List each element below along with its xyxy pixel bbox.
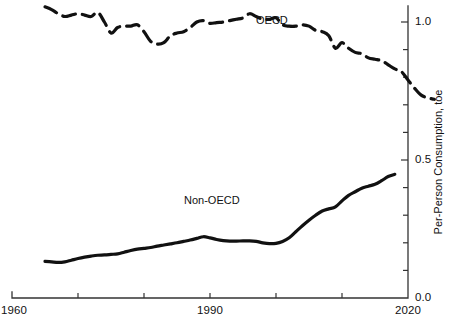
series-group bbox=[45, 7, 434, 263]
y-axis-title-wrap: Per-Person Consumption, toe bbox=[427, 0, 449, 324]
x-tick-label-1960: 1960 bbox=[1, 304, 27, 316]
series-line-oecd bbox=[45, 7, 434, 99]
x-tick-label-1990: 1990 bbox=[197, 304, 223, 316]
series-line-non-oecd bbox=[45, 174, 395, 262]
series-label-oecd: OECD bbox=[256, 14, 288, 26]
x-tick-label-2020: 2020 bbox=[395, 304, 421, 316]
chart-plot-area bbox=[0, 0, 449, 324]
chart-container: 1960 1990 2020 1.0 0.5 0.0 OECD Non-OECD… bbox=[0, 0, 449, 324]
series-label-non-oecd: Non-OECD bbox=[184, 194, 240, 206]
y-axis-title: Per-Person Consumption, toe bbox=[432, 90, 444, 235]
